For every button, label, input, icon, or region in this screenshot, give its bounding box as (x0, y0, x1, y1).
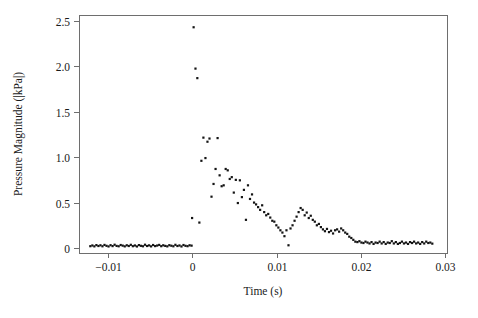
data-point (152, 244, 154, 246)
data-point (291, 224, 293, 226)
data-point (93, 245, 95, 247)
data-point (97, 245, 99, 247)
x-axis-title: Time (s) (244, 285, 283, 298)
x-tick-label: −0.01 (95, 261, 122, 273)
data-point (318, 223, 320, 225)
data-point (237, 202, 239, 204)
data-point (326, 228, 328, 230)
data-point (409, 241, 411, 243)
data-point (144, 244, 146, 246)
data-point (208, 137, 210, 139)
data-point (342, 229, 344, 231)
data-point (146, 245, 148, 247)
data-point (314, 221, 316, 223)
data-point (334, 229, 336, 231)
data-point (320, 226, 322, 228)
data-point (336, 228, 338, 230)
data-point (389, 242, 391, 244)
plot-canvas: −0.0100.010.020.03 00.51.01.52.02.5 Time… (0, 0, 478, 318)
scatter-plot-figure: −0.0100.010.020.03 00.51.01.52.02.5 Time… (0, 0, 478, 318)
data-point (186, 245, 188, 247)
data-point (241, 196, 243, 198)
data-point (130, 244, 132, 246)
data-point (134, 244, 136, 246)
data-point (247, 184, 249, 186)
data-point (160, 245, 162, 247)
data-point (344, 231, 346, 233)
data-point (425, 241, 427, 243)
data-point (350, 237, 352, 239)
data-point (362, 242, 364, 244)
data-point (105, 245, 107, 247)
data-point (399, 242, 401, 244)
data-point (216, 137, 218, 139)
data-point (101, 245, 103, 247)
data-point (340, 227, 342, 229)
data-point (407, 243, 409, 245)
data-point (332, 232, 334, 234)
data-point (269, 216, 271, 218)
data-point (194, 68, 196, 70)
data-point (354, 241, 356, 243)
data-point (200, 160, 202, 162)
data-point (103, 244, 105, 246)
data-point (142, 245, 144, 247)
data-point (114, 244, 116, 246)
x-tick-label: 0.01 (267, 261, 287, 273)
data-point (368, 242, 370, 244)
data-point (140, 245, 142, 247)
data-point (277, 226, 279, 228)
data-point (289, 227, 291, 229)
data-point (360, 241, 362, 243)
data-point (281, 231, 283, 233)
data-point (150, 245, 152, 247)
data-point (198, 221, 200, 223)
data-point (243, 189, 245, 191)
data-point (132, 245, 134, 247)
data-point (271, 220, 273, 222)
data-point (279, 229, 281, 231)
data-point (156, 244, 158, 246)
data-point (391, 240, 393, 242)
data-point (352, 239, 354, 241)
data-point (306, 211, 308, 213)
data-point (401, 241, 403, 243)
data-point (346, 233, 348, 235)
data-point (158, 244, 160, 246)
data-point (366, 241, 368, 243)
data-point (324, 230, 326, 232)
y-tick-label: 1.0 (56, 152, 71, 164)
data-point (122, 245, 124, 247)
data-point (348, 236, 350, 238)
y-tick-label: 0 (64, 243, 70, 255)
data-point (118, 245, 120, 247)
data-point (261, 204, 263, 206)
figure-background (0, 0, 478, 318)
y-tick-label: 2.5 (56, 16, 71, 28)
data-point (239, 179, 241, 181)
data-point (411, 242, 413, 244)
data-point (328, 231, 330, 233)
data-point (116, 245, 118, 247)
data-point (387, 241, 389, 243)
data-point (393, 242, 395, 244)
data-point (379, 241, 381, 243)
data-point (267, 213, 269, 215)
data-point (126, 244, 128, 246)
data-point (99, 244, 101, 246)
data-point (263, 211, 265, 213)
data-point (397, 243, 399, 245)
data-point (377, 242, 379, 244)
data-point (283, 235, 285, 237)
data-point (221, 185, 223, 187)
data-point (395, 241, 397, 243)
data-point (253, 201, 255, 203)
data-point (168, 244, 170, 246)
data-point (381, 242, 383, 244)
data-point (405, 241, 407, 243)
data-point (245, 219, 247, 221)
data-point (265, 214, 267, 216)
data-point (370, 241, 372, 243)
data-point (403, 242, 405, 244)
data-point (188, 244, 190, 246)
